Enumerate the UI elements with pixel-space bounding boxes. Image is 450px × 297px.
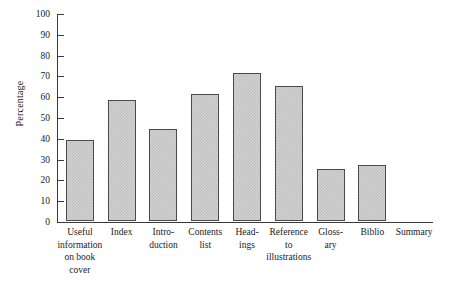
x-axis-line [57,222,433,223]
y-axis-tick-mark [58,201,64,202]
y-axis-tick-label: 60 [41,92,51,102]
y-axis-tick-label: 10 [41,196,51,206]
bar [66,140,94,221]
y-axis-tick-mark [58,35,64,36]
y-axis-tick-mark [58,160,64,161]
bar [317,169,345,221]
y-axis-tick-mark [58,76,64,77]
y-axis-tick-mark [58,118,64,119]
y-axis-tick-mark [58,56,64,57]
y-axis-tick-mark [58,14,64,15]
bar [275,86,303,221]
y-axis-tick-mark [58,222,64,223]
bar [149,129,177,221]
y-axis-tick-mark [58,97,64,98]
bar-chart: Percentage 0102030405060708090100 Useful… [0,0,450,297]
y-axis-tick-mark [58,139,64,140]
y-axis-tick-label: 80 [41,51,51,61]
y-axis-tick-label: 40 [41,134,51,144]
y-axis-tick-label: 20 [41,175,51,185]
y-axis-tick-label: 90 [41,30,51,40]
bar [358,165,386,221]
x-axis-label: Summary [369,226,450,239]
bar [233,73,261,221]
y-axis-tick-label: 100 [36,9,50,19]
y-axis-tick-label: 30 [41,155,51,165]
bar [108,100,136,221]
y-axis-title: Percentage [14,54,25,154]
plot-area: 0102030405060708090100 [57,14,433,222]
y-axis-tick-label: 50 [41,113,51,123]
bar [191,94,219,221]
y-axis-tick-label: 70 [41,71,51,81]
y-axis-tick-mark [58,180,64,181]
